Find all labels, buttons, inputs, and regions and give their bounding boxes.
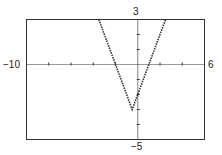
y-max-label: 3: [133, 7, 139, 17]
y-min-label: −5: [131, 142, 142, 152]
viewing-window-frame: [27, 20, 205, 140]
tick-marks: [27, 20, 205, 140]
axes: [27, 20, 205, 140]
x-max-label: 6: [208, 60, 214, 70]
graph-plot: [0, 0, 222, 155]
x-min-label: −10: [3, 60, 20, 70]
